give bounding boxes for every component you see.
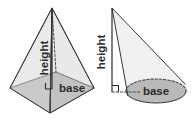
cone-base-label: base: [143, 85, 169, 97]
pyramid-height-label: height: [38, 41, 50, 76]
pyramid-base-label: base: [59, 82, 85, 94]
pyramid-figure: height base: [10, 8, 94, 113]
pyramid-face-right: [50, 8, 94, 113]
cone-right-angle-marker: [112, 86, 119, 93]
diagram-svg: height base height: [0, 0, 196, 118]
geometry-diagram: height base height: [0, 0, 196, 118]
cone-figure: height base: [95, 8, 189, 103]
cone-height-label: height: [95, 35, 107, 70]
